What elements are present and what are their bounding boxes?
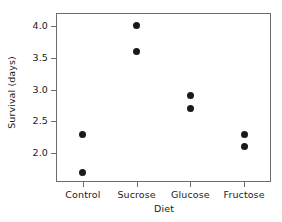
x-axis-title: Diet <box>56 203 272 214</box>
y-axis-tick-label: 2.5 <box>8 116 48 126</box>
plot-frame <box>56 13 271 182</box>
x-axis-tick-mark <box>83 182 84 187</box>
data-point <box>241 131 248 138</box>
x-axis-tick-mark <box>190 182 191 187</box>
y-axis-tick-label: 2.0 <box>8 148 48 158</box>
x-axis-tick-mark <box>244 182 245 187</box>
y-axis-tick-label: 3.0 <box>8 85 48 95</box>
y-axis-tick-label: 3.5 <box>8 53 48 63</box>
x-axis-tick-label: Fructose <box>209 189 279 200</box>
y-axis-tick-label: 4.0 <box>8 21 48 31</box>
data-point <box>241 143 248 150</box>
x-axis-tick-mark <box>137 182 138 187</box>
data-point <box>133 48 140 55</box>
scatter-plot-figure: Survival (days) 2.02.53.03.54.0ControlSu… <box>0 0 282 222</box>
